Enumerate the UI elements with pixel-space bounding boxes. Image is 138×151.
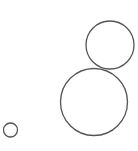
circle-top-right	[86, 21, 134, 69]
circle-large	[61, 69, 128, 136]
circle-small	[4, 123, 18, 137]
diagram-canvas	[0, 0, 138, 151]
